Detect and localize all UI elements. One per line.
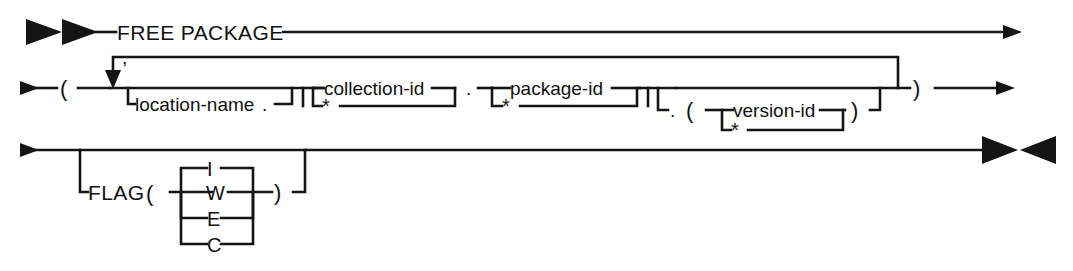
flag-option-c: C: [207, 234, 221, 256]
start-triangle-inner-icon: [62, 19, 98, 45]
rail-version-branch-down: [658, 88, 668, 110]
diagram-line-3: FLAG ( I W E C ): [20, 136, 1056, 256]
loop-comma-label: ,: [122, 47, 127, 68]
keyword-flag: FLAG: [88, 181, 144, 204]
end-triangle-right-icon: [982, 136, 1018, 164]
label-package-id: package-id: [510, 78, 603, 99]
end-triangle-left-icon: [1020, 136, 1056, 164]
open-paren-2: (: [686, 98, 694, 123]
rail-flag-rejoin: [293, 150, 305, 192]
rail-loop-back: [113, 57, 898, 88]
label-package-star: *: [502, 95, 510, 117]
close-paren-1: ): [913, 76, 920, 101]
rail-location-name-branch: [128, 88, 135, 104]
syntax-diagram-container: FREE PACKAGE ( , location-name .: [0, 0, 1073, 271]
label-collection-star: *: [322, 95, 330, 117]
diagram-line-1: FREE PACKAGE: [26, 19, 1022, 45]
rail-location-name-rejoin: [275, 88, 292, 104]
rail-flag-option-i: [181, 168, 207, 192]
syntax-diagram: FREE PACKAGE ( , location-name .: [0, 0, 1073, 271]
label-version-id: version-id: [733, 100, 815, 121]
flag-close-paren: ): [274, 180, 281, 205]
rail-flag-option-e: [181, 192, 207, 218]
keyword-free-package: FREE PACKAGE: [117, 21, 284, 44]
flag-option-e: E: [207, 208, 220, 230]
line1-end-arrowhead-icon: [1003, 25, 1022, 39]
start-triangle-outer-icon: [26, 19, 62, 45]
open-paren-1: (: [60, 76, 68, 101]
label-collection-id: collection-id: [324, 78, 424, 99]
label-location-name: location-name: [135, 94, 254, 115]
flag-option-i: I: [207, 158, 213, 180]
rail-collection-star-branch: [313, 88, 322, 106]
rail-flag-branch-down: [80, 150, 88, 192]
rail-package-star-branch: [492, 88, 502, 106]
close-paren-2: ): [851, 98, 858, 123]
loop-down-arrowhead-icon: [105, 70, 121, 89]
flag-open-paren: (: [146, 181, 154, 206]
rail-version-star-branch: [722, 110, 731, 130]
rail-version-rejoin: [870, 88, 880, 110]
flag-option-w: W: [206, 182, 225, 204]
rail-flag-option-i-rejoin: [221, 168, 253, 192]
label-dot-2: .: [670, 100, 675, 121]
label-dot-1: .: [466, 78, 471, 99]
label-version-star: *: [731, 119, 739, 141]
diagram-line-2: ( , location-name . collection-id * .: [20, 47, 1015, 141]
label-dot-after-location: .: [262, 94, 267, 115]
rail-flag-option-e-rejoin: [221, 192, 253, 218]
line2-end-arrowhead-icon: [996, 81, 1015, 95]
